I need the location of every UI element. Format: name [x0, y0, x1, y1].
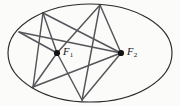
ellipse-diagram-canvas: [0, 0, 180, 106]
focus-label-f1-subscript: 1: [70, 51, 74, 59]
focus-label-f2-letter: F: [127, 46, 134, 57]
focus-label-f1: F1: [63, 47, 73, 58]
focus-dot-f1: [54, 50, 60, 56]
focus-label-f1-letter: F: [63, 46, 70, 57]
focus-dot-f2: [118, 50, 124, 56]
chord-p2-p5: [82, 5, 100, 100]
focus-label-f2-subscript: 2: [134, 51, 138, 59]
focus-label-f2: F2: [127, 47, 137, 58]
ellipse-figure: F1 F2: [0, 0, 180, 106]
chord-p2-f2: [100, 5, 121, 53]
